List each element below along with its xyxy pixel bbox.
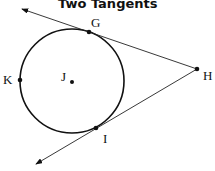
point-j [70,80,74,84]
tangent-line-gh [22,9,197,69]
label-i: I [103,131,107,146]
point-h [195,67,200,72]
tangent-diagram: G H I J K [0,0,215,171]
label-g: G [91,15,100,30]
point-g [87,30,92,35]
label-k: K [3,72,13,87]
point-k [18,78,23,83]
point-i [94,126,99,131]
label-h: H [203,68,212,83]
label-j: J [61,69,66,84]
